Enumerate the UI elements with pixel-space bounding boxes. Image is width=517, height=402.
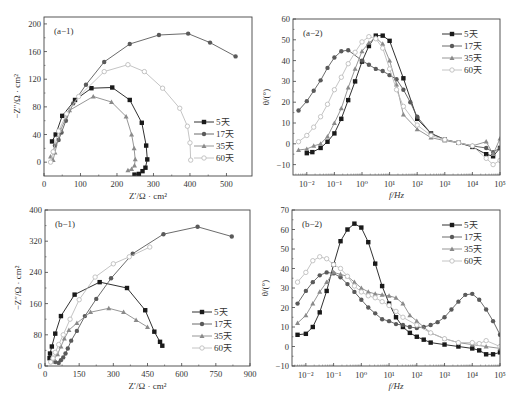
legend-label: 17天 — [216, 129, 234, 139]
y-tick-label: 40 — [33, 130, 42, 140]
legend-label: 60天 — [214, 343, 232, 353]
eis-figure: 010020030040050004080120160200Z′/Ω · cm²… — [0, 0, 517, 402]
open-circle-marker-icon — [178, 106, 182, 110]
y-tick-label: 0 — [286, 139, 290, 149]
open-circle-marker-icon — [68, 317, 72, 321]
x-tick-label: 200 — [111, 179, 124, 189]
figure-canvas: 010020030040050004080120160200Z′/Ω · cm²… — [0, 0, 517, 402]
open-circle-marker-icon — [53, 350, 57, 354]
circle-marker-icon — [325, 66, 329, 70]
square-marker-icon — [158, 340, 162, 344]
open-circle-marker-icon — [484, 338, 488, 342]
y-tick-label: −10 — [277, 160, 290, 170]
circle-marker-icon — [69, 338, 73, 342]
triangle-marker-icon — [132, 146, 137, 151]
open-circle-marker-icon — [318, 255, 322, 259]
y-tick-label: 80 — [34, 330, 43, 340]
y-axis-label: θ/(°) — [261, 89, 271, 105]
open-circle-marker-icon — [295, 280, 299, 284]
circle-marker-icon — [295, 301, 299, 305]
triangle-marker-icon — [310, 301, 315, 306]
open-circle-marker-icon — [311, 259, 315, 263]
open-circle-marker-icon — [352, 284, 356, 288]
square-marker-icon — [415, 335, 419, 339]
open-circle-marker-icon — [394, 88, 398, 92]
x-axis-label: Z′/Ω · cm² — [129, 381, 167, 391]
open-circle-marker-icon — [346, 62, 350, 66]
legend-label: 5天 — [464, 220, 478, 230]
x-tick-label: 150 — [73, 369, 86, 379]
triangle-marker-icon — [366, 289, 371, 294]
chart-a-1: 010020030040050004080120160200Z′/Ω · cm²… — [12, 17, 252, 201]
y-tick-label: 200 — [28, 19, 41, 29]
series-line-60天 — [51, 65, 191, 163]
y-tick-label: −10 — [276, 361, 289, 371]
circle-marker-icon — [346, 48, 350, 52]
y-tick-label: 20 — [281, 303, 290, 313]
circle-marker-icon — [394, 322, 398, 326]
square-marker-icon — [128, 98, 132, 102]
square-marker-icon — [295, 333, 299, 337]
x-tick-label: 10⁴ — [467, 179, 479, 189]
square-marker-icon — [125, 286, 129, 290]
open-circle-marker-icon — [127, 255, 131, 259]
y-tick-label: 70 — [281, 205, 290, 215]
circle-marker-icon — [230, 234, 234, 238]
square-marker-icon — [450, 223, 454, 227]
square-marker-icon — [442, 342, 446, 346]
square-marker-icon — [359, 225, 363, 229]
open-circle-marker-icon — [188, 158, 192, 162]
legend-label: 35天 — [464, 53, 482, 63]
x-tick-label: 0 — [42, 179, 46, 189]
legend-label: 5天 — [464, 29, 478, 39]
circle-marker-icon — [401, 88, 405, 92]
square-marker-icon — [97, 280, 101, 284]
chart-a-2: 10⁻²10⁻¹10⁰10¹10²10³10⁴10⁵−1001020304050… — [261, 14, 506, 200]
square-marker-icon — [160, 344, 164, 348]
triangle-marker-icon — [91, 94, 96, 99]
legend-label: 17天 — [464, 232, 482, 242]
triangle-marker-icon — [145, 324, 150, 329]
circle-marker-icon — [401, 323, 405, 327]
open-circle-marker-icon — [367, 34, 371, 38]
square-marker-icon — [346, 98, 350, 102]
open-circle-marker-icon — [76, 94, 80, 98]
open-circle-marker-icon — [381, 46, 385, 50]
open-circle-marker-icon — [324, 257, 328, 261]
x-tick-label: 600 — [175, 369, 188, 379]
open-circle-marker-icon — [126, 62, 130, 66]
open-circle-marker-icon — [428, 331, 432, 335]
legend: 5天17天35天60天 — [194, 117, 234, 163]
y-tick-label: 0 — [285, 342, 289, 352]
y-axis-label: θ/(°) — [260, 280, 270, 296]
panel-label: (b−1) — [55, 219, 75, 229]
open-circle-marker-icon — [456, 340, 460, 344]
square-marker-icon — [394, 315, 398, 319]
x-tick-label: 10⁵ — [494, 179, 506, 189]
circle-marker-icon — [352, 290, 356, 294]
series-group — [47, 225, 234, 366]
circle-marker-icon — [195, 225, 199, 229]
circle-marker-icon — [157, 33, 161, 37]
square-marker-icon — [200, 310, 204, 314]
square-marker-icon — [324, 289, 328, 293]
x-tick-label: 10⁻² — [298, 370, 314, 380]
triangle-marker-icon — [132, 163, 137, 168]
legend-label: 5天 — [216, 117, 230, 127]
series-line-60天 — [51, 247, 150, 362]
circle-marker-icon — [202, 132, 206, 136]
open-circle-marker-icon — [318, 115, 322, 119]
x-tick-label: 10⁰ — [356, 179, 369, 189]
square-marker-icon — [470, 346, 474, 350]
square-marker-icon — [332, 131, 336, 135]
circle-marker-icon — [311, 280, 315, 284]
circle-marker-icon — [450, 44, 454, 48]
circle-marker-icon — [318, 273, 322, 277]
open-circle-marker-icon — [188, 141, 192, 145]
legend-label: 17天 — [464, 41, 482, 51]
y-tick-label: 0 — [38, 361, 42, 371]
circle-marker-icon — [109, 276, 113, 280]
x-tick-label: 10⁻² — [299, 179, 315, 189]
square-marker-icon — [408, 331, 412, 335]
x-tick-label: 10⁰ — [355, 370, 368, 380]
